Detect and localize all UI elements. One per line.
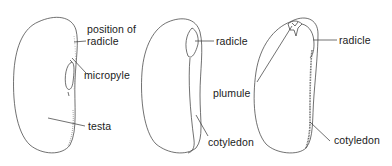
seed-external-view [14,17,86,153]
seed-outline-3 [254,18,318,153]
label-radicle-3: radicle [339,35,371,46]
label-testa: testa [88,121,111,132]
cotyledon-seam-2 [188,58,194,153]
radicle-outline-3 [302,24,314,58]
label-cotyledon-3: cotyledon [334,135,380,146]
seed-testa-removed-view [142,19,214,153]
label-micropyle: micropyle [84,70,130,81]
seed-outline-1 [14,17,78,153]
leader-testa [48,118,85,126]
radicle-outline-2 [186,28,198,57]
hilum-outline [65,62,74,89]
leader-cotyledon-2 [196,115,208,136]
label-plumule: plumule [213,88,250,99]
leader-plumule [257,26,292,82]
cotyledon-edge-3 [306,50,312,148]
leader-position-of-radicle [74,41,86,42]
label-radicle-1: radicle [87,36,119,47]
label-radicle-2: radicle [216,36,248,47]
label-position-of: position of [87,24,136,35]
seed-cotyledon-removed-view [254,18,337,153]
label-cotyledon-2: cotyledon [208,137,254,148]
bean-seed-diagram: position of radicle micropyle testa radi… [0,0,392,166]
leader-cotyledon-3 [310,122,330,141]
